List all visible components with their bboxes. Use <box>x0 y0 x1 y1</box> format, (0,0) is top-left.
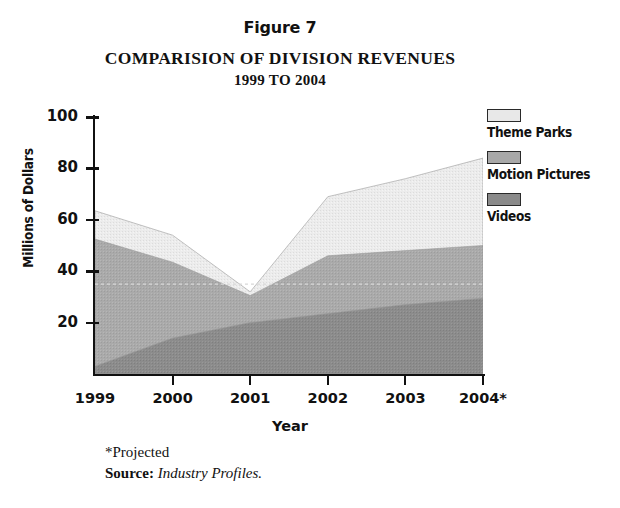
series-layers <box>95 158 483 374</box>
plot-area <box>95 117 483 374</box>
x-tick-2004 <box>482 376 484 385</box>
legend-entry-theme-parks[interactable]: Theme Parks <box>487 109 590 140</box>
y-axis-line <box>93 115 95 376</box>
x-axis-line <box>93 374 485 376</box>
stacked-area-chart <box>95 117 483 374</box>
y-tick-label-60: 60 <box>32 210 78 228</box>
source-line: Source: Industry Profiles. <box>105 463 262 484</box>
x-tick-label-2000: 2000 <box>133 390 213 406</box>
legend-swatch-videos <box>487 193 521 206</box>
y-tick-80 <box>86 167 99 170</box>
footnotes: *Projected Source: Industry Profiles. <box>105 442 262 485</box>
chart-subtitle: 1999 TO 2004 <box>0 72 560 89</box>
y-axis-title: Millions of Dollars <box>20 108 36 308</box>
y-tick-100 <box>86 116 99 119</box>
source-value: Industry Profiles. <box>158 465 262 481</box>
x-tick-label-2003: 2003 <box>365 390 445 406</box>
x-tick-2003 <box>404 376 406 385</box>
chart-legend: Theme ParksMotion PicturesVideos <box>487 109 590 235</box>
y-tick-label-40: 40 <box>32 261 78 279</box>
figure-label: Figure 7 <box>0 18 560 37</box>
y-tick-60 <box>86 219 99 222</box>
y-tick-label-80: 80 <box>32 158 78 176</box>
y-tick-label-20: 20 <box>32 313 78 331</box>
legend-label-theme-parks: Theme Parks <box>487 124 590 140</box>
x-tick-label-2001: 2001 <box>210 390 290 406</box>
x-tick-label-1999: 1999 <box>55 390 135 406</box>
chart-title: COMPARISION OF DIVISION REVENUES <box>0 48 560 69</box>
x-tick-2002 <box>327 376 329 385</box>
legend-label-motion-pictures: Motion Pictures <box>487 166 590 182</box>
y-tick-40 <box>86 270 99 273</box>
x-tick-label-2002: 2002 <box>288 390 368 406</box>
x-tick-label-2004: 2004* <box>443 390 523 406</box>
source-label: Source: <box>105 465 154 481</box>
x-axis-title: Year <box>245 418 335 434</box>
y-tick-label-100: 100 <box>32 107 78 125</box>
legend-entry-motion-pictures[interactable]: Motion Pictures <box>487 151 590 182</box>
x-tick-2000 <box>172 376 174 385</box>
legend-swatch-motion-pictures <box>487 151 521 164</box>
x-tick-2001 <box>249 376 251 385</box>
legend-swatch-theme-parks <box>487 109 521 122</box>
footnote-projected: *Projected <box>105 442 262 463</box>
legend-entry-videos[interactable]: Videos <box>487 193 590 224</box>
legend-label-videos: Videos <box>487 208 590 224</box>
y-tick-20 <box>86 322 99 325</box>
